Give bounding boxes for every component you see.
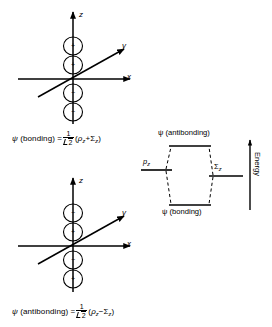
antibonding-axis-label-y: y xyxy=(122,208,126,217)
bonding-caption: ψ (bonding) =12(ρz+Σz) xyxy=(12,130,101,147)
antibonding-lobe-sign-3: − xyxy=(69,255,77,264)
antibonding-caption-kind: (antibonding) xyxy=(20,307,68,316)
bonding-lobe-sign-1: + xyxy=(69,41,77,50)
antibonding-lobe-sign-2: + xyxy=(69,227,77,236)
antibonding-caption-close-paren: ) xyxy=(111,307,114,316)
bonding-axis-label-z: z xyxy=(79,10,83,19)
antibonding-caption-fraction: 12 xyxy=(76,303,87,320)
antibonding-lobe-sign-1: − xyxy=(69,208,77,217)
energy-diagram-linework xyxy=(141,140,250,210)
bonding-lobe-sign-2: + xyxy=(69,60,77,69)
bonding-caption-kind: (bonding) xyxy=(20,134,55,143)
figure-canvas: z x y + + − − ψ (bonding) =12(ρz+Σz) ψ (… xyxy=(0,0,272,327)
bonding-lobe-sign-4: − xyxy=(69,107,77,116)
antibonding-axis-label-x: x xyxy=(127,239,131,248)
energy-right-level-label: Σz xyxy=(214,162,221,172)
energy-left-level-label: pz xyxy=(143,157,150,167)
antibonding-caption-equals: = xyxy=(71,307,76,316)
figure-linework xyxy=(0,0,272,327)
bonding-caption-denominator: 2 xyxy=(68,138,73,146)
bonding-lobe-sign-3: − xyxy=(69,88,77,97)
bonding-caption-equals: = xyxy=(57,134,62,143)
energy-bottom-level-label: ψ (bonding) xyxy=(162,207,202,216)
bonding-axis-label-y: y xyxy=(122,41,126,50)
antibonding-axis-label-z: z xyxy=(79,176,83,185)
antibonding-caption-denominator: 2 xyxy=(81,311,86,319)
antibonding-lobe-sign-4: + xyxy=(69,274,77,283)
energy-top-level-label: ψ (antibonding) xyxy=(158,128,210,137)
energy-axis-label: Energy xyxy=(253,152,262,176)
antibonding-caption: ψ (antibonding) =12(ρz−Σz) xyxy=(12,303,114,320)
bonding-caption-close-paren: ) xyxy=(98,134,101,143)
bonding-caption-numerator: 1 xyxy=(63,130,74,137)
bonding-caption-denominator-root: 2 xyxy=(63,137,74,147)
antibonding-caption-numerator: 1 xyxy=(76,303,87,310)
bonding-axis-label-x: x xyxy=(127,72,131,81)
bonding-caption-fraction: 12 xyxy=(63,130,74,147)
antibonding-caption-denominator-root: 2 xyxy=(76,310,87,320)
